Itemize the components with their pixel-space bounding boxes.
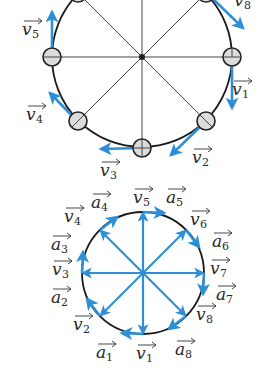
svg-text:3: 3 (110, 169, 117, 182)
svg-text:2: 2 (202, 156, 209, 169)
svg-text:4: 4 (101, 201, 108, 214)
label-v4: v4 (26, 103, 46, 126)
ball-1 (223, 48, 241, 66)
svg-text:8: 8 (206, 313, 213, 326)
label-v1: v1 (136, 342, 156, 365)
svg-text:3: 3 (61, 243, 68, 256)
svg-text:7: 7 (226, 293, 233, 306)
center-point (139, 54, 145, 60)
label-a4: a4 (91, 191, 111, 214)
svg-text:5: 5 (176, 196, 183, 209)
hv4 (101, 231, 143, 273)
a5 (143, 212, 164, 213)
svg-text:a: a (175, 339, 185, 359)
label-a5: a5 (166, 186, 186, 209)
label-a1: a1 (96, 341, 116, 364)
svg-text:2: 2 (83, 323, 90, 336)
hv6 (143, 231, 185, 273)
svg-text:v: v (73, 314, 83, 334)
ball-4 (69, 112, 87, 130)
svg-text:v: v (190, 209, 200, 229)
label-v6: v6 (190, 208, 210, 231)
svg-text:a: a (212, 231, 222, 251)
a6 (186, 230, 199, 247)
svg-text:5: 5 (32, 28, 39, 41)
a1 (122, 333, 143, 334)
circular-motion-diagram: v1 v2 v3 v4 v5 v8 (22, 0, 252, 182)
diagram-canvas: v1 v2 v3 v4 v5 v8 (0, 0, 264, 379)
svg-text:v: v (210, 258, 220, 278)
svg-text:6: 6 (222, 240, 229, 253)
label-v7: v7 (210, 257, 230, 280)
label-v3: v3 (100, 159, 120, 182)
svg-text:v: v (64, 206, 74, 226)
svg-text:8: 8 (185, 348, 192, 361)
svg-text:a: a (216, 284, 226, 304)
a3 (82, 252, 83, 273)
label-v2: v2 (192, 146, 212, 169)
svg-text:v: v (133, 187, 143, 207)
svg-text:v: v (232, 79, 242, 99)
label-v8: v8 (196, 303, 216, 326)
svg-text:a: a (51, 234, 61, 254)
a4 (100, 217, 117, 230)
svg-text:v: v (234, 0, 244, 10)
velocity-vectors (50, 0, 243, 155)
label-v1: v1 (232, 78, 252, 101)
svg-text:v: v (26, 104, 36, 124)
svg-text:a: a (51, 287, 61, 307)
svg-text:v: v (192, 147, 202, 167)
svg-text:a: a (96, 342, 106, 362)
a8 (169, 316, 186, 329)
label-a7: a7 (216, 283, 236, 306)
svg-text:1: 1 (106, 351, 113, 364)
svg-text:4: 4 (74, 215, 81, 228)
hodograph-velocity-vectors (83, 213, 203, 333)
svg-text:2: 2 (61, 296, 68, 309)
label-v5: v5 (133, 186, 153, 209)
svg-text:3: 3 (62, 268, 69, 281)
label-v3: v3 (52, 258, 72, 281)
svg-text:v: v (52, 259, 62, 279)
ball-2 (197, 112, 215, 130)
svg-text:1: 1 (242, 88, 249, 101)
svg-text:8: 8 (244, 0, 251, 12)
ball-5 (43, 48, 61, 66)
svg-text:v: v (100, 160, 110, 180)
svg-text:a: a (166, 187, 176, 207)
svg-text:1: 1 (146, 352, 153, 365)
ball-3 (133, 139, 151, 157)
svg-text:v: v (22, 19, 32, 39)
label-a6: a6 (212, 230, 232, 253)
label-a3: a3 (51, 233, 71, 256)
hodograph-diagram: v5 a5 a4 v4 v6 a6 a3 v3 v7 a7 a2 v8 v2 a… (51, 186, 236, 365)
label-a2: a2 (51, 286, 71, 309)
label-v8: v8 (234, 0, 251, 12)
a7 (203, 273, 204, 294)
svg-text:4: 4 (36, 113, 43, 126)
svg-text:6: 6 (200, 218, 207, 231)
svg-text:7: 7 (220, 267, 227, 280)
label-v5: v5 (22, 18, 42, 41)
hv2 (101, 273, 143, 315)
svg-text:5: 5 (143, 196, 150, 209)
svg-text:v: v (136, 343, 146, 363)
svg-text:a: a (91, 192, 101, 212)
label-v4: v4 (64, 205, 84, 228)
svg-text:v: v (196, 304, 206, 324)
hv8 (143, 273, 185, 315)
label-a8: a8 (175, 338, 195, 361)
label-v2: v2 (73, 313, 93, 336)
